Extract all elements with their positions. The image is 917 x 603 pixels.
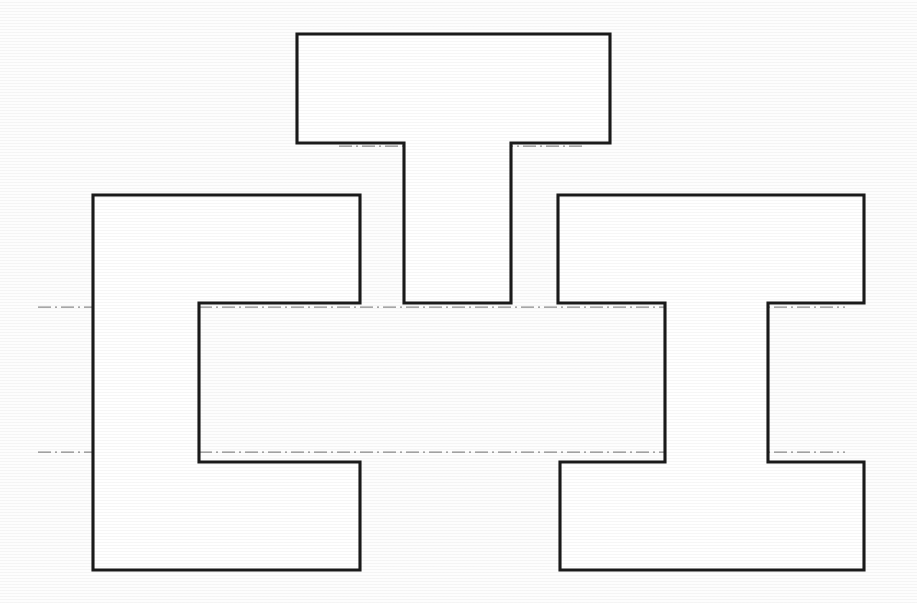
profile-layer [93,34,864,570]
cee-profile-outline [93,195,360,570]
eye-profile-outline [558,195,864,570]
drawing-svg-root [0,0,917,603]
drawing-canvas [0,0,917,603]
